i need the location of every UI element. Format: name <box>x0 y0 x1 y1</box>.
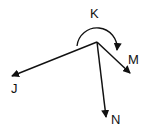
vertex-label-k: K <box>90 7 99 20</box>
point-label-m: M <box>128 53 139 66</box>
point-label-j: J <box>11 82 18 95</box>
ray-kj <box>12 42 97 76</box>
ray-km <box>97 42 130 73</box>
point-label-n: N <box>111 113 120 126</box>
diagram-lines <box>0 0 146 133</box>
angle-diagram: K J M N <box>0 0 146 133</box>
ray-kn <box>97 42 106 117</box>
